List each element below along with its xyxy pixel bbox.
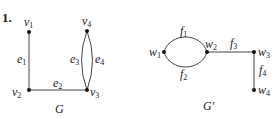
vertex-w3	[252, 50, 256, 54]
edge-e4	[87, 31, 93, 90]
graph-g-prime: w1 w2 w3 w4 f1 f2 f3 f4 G′	[149, 24, 270, 113]
label-e4: e4	[95, 52, 104, 67]
vertex-w1	[162, 50, 166, 54]
label-f2: f2	[180, 67, 187, 82]
vertex-v4	[85, 29, 89, 33]
graph-diagram: 1. v1 v2 v3 v4 e1 e2 e3 e4 G w1 w2 w3 w4	[0, 0, 275, 119]
label-w4: w4	[258, 83, 270, 98]
label-e3: e3	[70, 52, 79, 67]
label-v4: v4	[82, 14, 91, 29]
label-e1: e1	[17, 52, 26, 67]
label-v1: v1	[24, 15, 33, 30]
graph-g: v1 v2 v3 v4 e1 e2 e3 e4 G	[12, 14, 104, 116]
edge-e3	[82, 31, 88, 90]
graph-g-title: G	[55, 102, 64, 116]
label-v3: v3	[90, 85, 99, 100]
edge-f1	[164, 37, 207, 52]
vertex-v2	[27, 88, 31, 92]
label-f3: f3	[230, 36, 237, 51]
label-w2: w2	[205, 37, 217, 52]
label-v2: v2	[12, 85, 21, 100]
vertex-w4	[252, 88, 256, 92]
graph-g-prime-title: G′	[203, 99, 215, 113]
vertex-v1	[27, 30, 31, 34]
vertex-v3	[85, 88, 89, 92]
label-e2: e2	[53, 76, 62, 91]
label-w1: w1	[149, 45, 161, 60]
label-f1: f1	[180, 24, 187, 39]
label-f4: f4	[259, 63, 266, 78]
edge-f2	[164, 52, 207, 67]
label-w3: w3	[258, 45, 270, 60]
problem-number: 1.	[2, 10, 12, 25]
